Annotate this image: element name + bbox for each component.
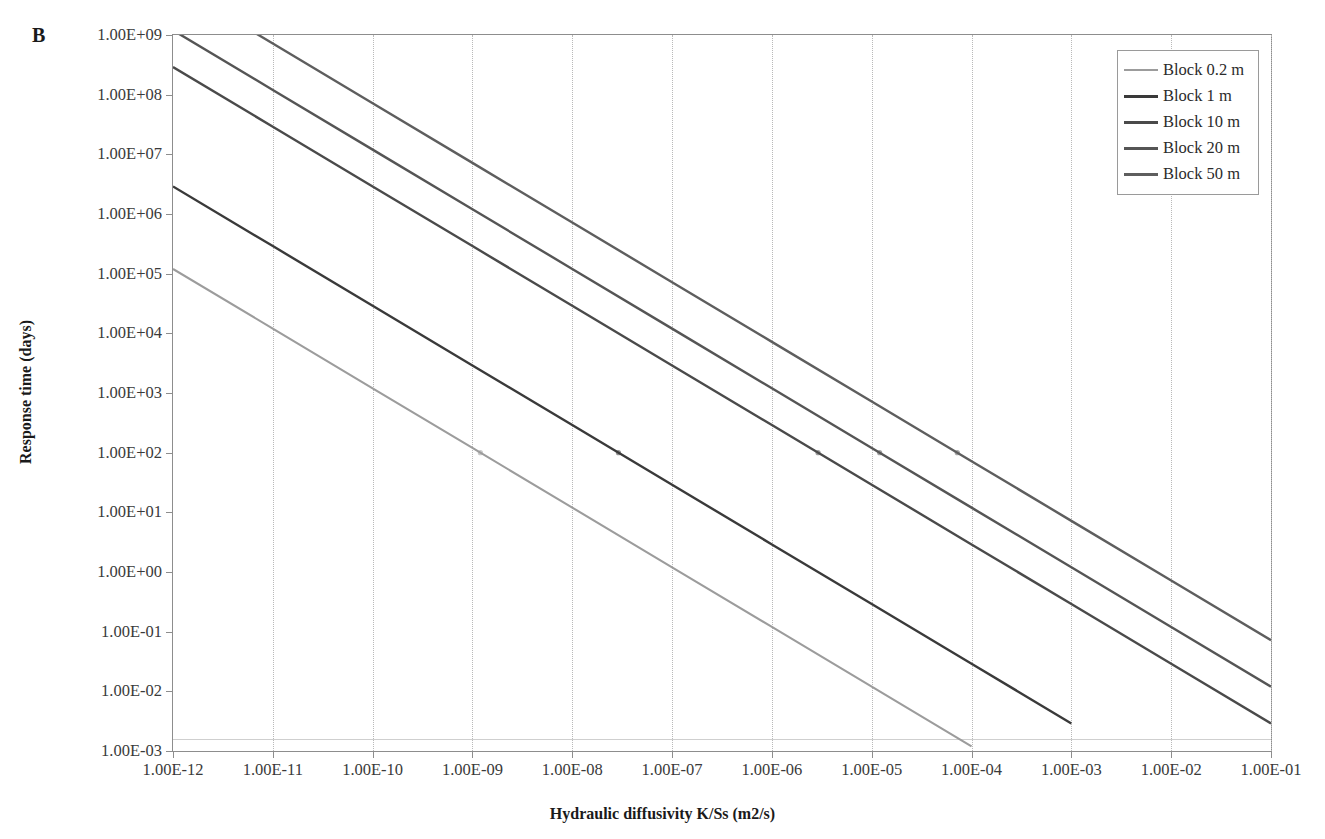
y-tick-label: 1.00E+06 [32, 206, 162, 223]
legend-label: Block 50 m [1163, 164, 1240, 184]
series-line [173, 35, 1271, 687]
series-line [173, 35, 1271, 640]
y-tick-label: 1.00E+00 [32, 564, 162, 581]
legend-item[interactable]: Block 1 m [1124, 83, 1252, 109]
series-marker [478, 450, 483, 455]
plot-area [172, 34, 1272, 752]
legend-line-swatch [1124, 95, 1158, 98]
legend-item[interactable]: Block 0.2 m [1124, 57, 1252, 83]
y-tick-label: 1.00E+03 [32, 385, 162, 402]
legend-label: Block 20 m [1163, 138, 1240, 158]
legend-line-swatch [1124, 173, 1158, 176]
x-tick-label: 1.00E-01 [1206, 760, 1325, 780]
x-axis-title: Hydraulic diffusivity K/Ss (m2/s) [0, 805, 1325, 823]
figure-panel-b: B Response time (days) Hydraulic diffusi… [0, 0, 1325, 839]
series-line [173, 269, 972, 746]
legend-label: Block 0.2 m [1163, 60, 1244, 80]
legend-item[interactable]: Block 20 m [1124, 135, 1252, 161]
legend-line-swatch [1124, 147, 1158, 150]
y-tick-label: 1.00E+04 [32, 325, 162, 342]
chart-legend: Block 0.2 mBlock 1 mBlock 10 mBlock 20 m… [1117, 50, 1259, 195]
series-marker [616, 450, 621, 455]
legend-item[interactable]: Block 10 m [1124, 109, 1252, 135]
y-tick-label: 1.00E+07 [32, 146, 162, 163]
legend-line-swatch [1124, 121, 1158, 124]
y-tick-label: 1.00E+01 [32, 504, 162, 521]
series-marker [815, 450, 820, 455]
y-tick-label: 1.00E-01 [32, 624, 162, 641]
legend-item[interactable]: Block 50 m [1124, 161, 1252, 187]
series-marker [877, 450, 882, 455]
y-tick-label: 1.00E-03 [32, 743, 162, 760]
data-series-lines [173, 35, 1271, 751]
legend-line-swatch [1124, 69, 1158, 71]
y-tick-label: 1.00E+09 [32, 27, 162, 44]
legend-label: Block 1 m [1163, 86, 1232, 106]
vertical-gridline [1271, 35, 1272, 751]
y-tick-label: 1.00E-02 [32, 683, 162, 700]
series-marker [955, 450, 960, 455]
series-line [173, 186, 1071, 723]
series-line [173, 67, 1271, 723]
y-tick-label: 1.00E+08 [32, 87, 162, 104]
y-tick-label: 1.00E+05 [32, 266, 162, 283]
y-tick-label: 1.00E+02 [32, 445, 162, 462]
legend-label: Block 10 m [1163, 112, 1240, 132]
